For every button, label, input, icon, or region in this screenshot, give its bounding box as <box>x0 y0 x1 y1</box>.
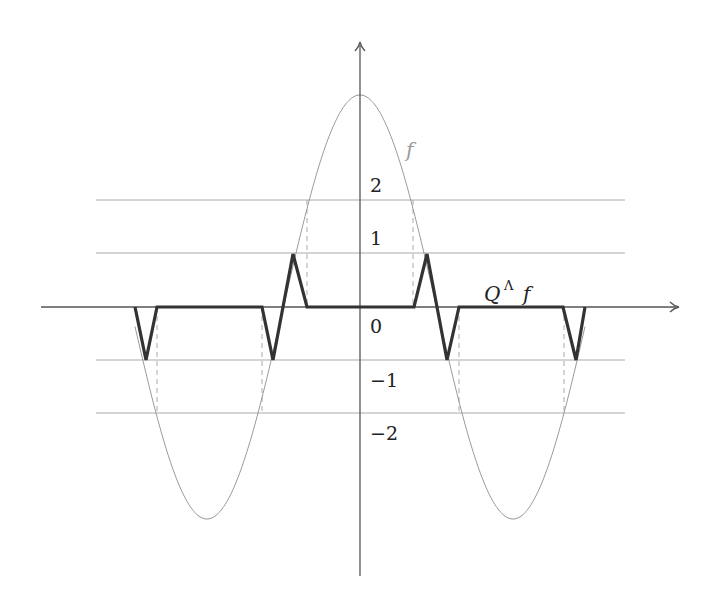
y-tick-label-neg1: −1 <box>370 369 398 391</box>
quantized-label: Q Λ f <box>484 278 534 306</box>
quantized-label-f: f <box>521 282 534 306</box>
quantized-label-Q: Q <box>484 282 500 306</box>
y-tick-label-0: 0 <box>370 315 382 337</box>
quantized-label-lambda: Λ <box>503 278 514 293</box>
function-label-f: f <box>404 138 417 162</box>
y-tick-label-2: 2 <box>370 174 382 196</box>
y-tick-label-1: 1 <box>370 227 382 249</box>
quantization-diagram: f 2 1 0 −1 −2 Q Λ f <box>0 0 714 607</box>
y-tick-label-neg2: −2 <box>370 422 398 444</box>
